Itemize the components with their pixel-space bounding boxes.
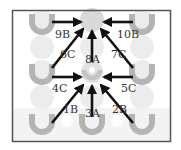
- label-10B: 10B: [117, 28, 139, 41]
- label-4C: 4C: [52, 82, 67, 95]
- label-6C: 6C: [60, 48, 75, 61]
- label-7C: 7C: [111, 48, 126, 61]
- move-diagram: 9B 10B 6C 8A 7C 4C 5C 1B 3A 2B: [0, 0, 181, 150]
- target-middle-dot: [89, 67, 95, 73]
- label-5C: 5C: [121, 82, 136, 95]
- label-1B: 1B: [63, 103, 78, 116]
- label-9B: 9B: [55, 28, 70, 41]
- label-2B: 2B: [112, 103, 127, 116]
- target-top: [80, 8, 104, 32]
- label-3A: 3A: [85, 107, 101, 120]
- label-8A: 8A: [85, 53, 101, 66]
